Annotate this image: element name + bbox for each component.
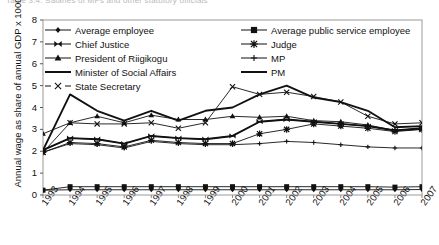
- state-secretary-marker-icon: [44, 80, 72, 92]
- legend-item-president-of-riigikogu[interactable]: President of Riigikogu: [44, 52, 167, 64]
- legend-item-minister-of-social-affairs[interactable]: Minister of Social Affairs: [44, 66, 176, 78]
- legend-label: Average public service employee: [271, 25, 410, 36]
- legend-item-mp[interactable]: MP: [240, 52, 285, 64]
- legend-label: Average employee: [75, 25, 154, 36]
- legend-label: Chief Justice: [75, 39, 129, 50]
- avg-public-service-employee-marker-icon: [240, 24, 268, 36]
- legend-item-chief-justice[interactable]: Chief Justice: [44, 38, 129, 50]
- pm-marker-icon: [240, 66, 268, 78]
- legend-item-state-secretary[interactable]: State Secretary: [44, 80, 140, 92]
- president-of-riigikogu-marker-icon: [44, 52, 72, 64]
- legend-label: Judge: [271, 39, 297, 50]
- legend-label: MP: [271, 53, 285, 64]
- legend-item-avg-employee[interactable]: Average employee: [44, 24, 154, 36]
- avg-employee-marker-icon: [44, 24, 72, 36]
- series-layer: [40, 84, 426, 193]
- legend-label: President of Riigikogu: [75, 53, 167, 64]
- legend-label: State Secretary: [75, 81, 140, 92]
- legend-label: PM: [271, 67, 285, 78]
- legend-item-avg-public-service-employee[interactable]: Average public service employee: [240, 24, 410, 36]
- mp-marker-icon: [240, 52, 268, 64]
- minister-of-social-affairs-marker-icon: [44, 66, 72, 78]
- legend-label: Minister of Social Affairs: [75, 67, 176, 78]
- legend-item-judge[interactable]: Judge: [240, 38, 297, 50]
- chart-legend: Average employeeAverage public service e…: [44, 24, 419, 96]
- judge-marker-icon: [240, 38, 268, 50]
- legend-item-pm[interactable]: PM: [240, 66, 285, 78]
- chief-justice-marker-icon: [44, 38, 72, 50]
